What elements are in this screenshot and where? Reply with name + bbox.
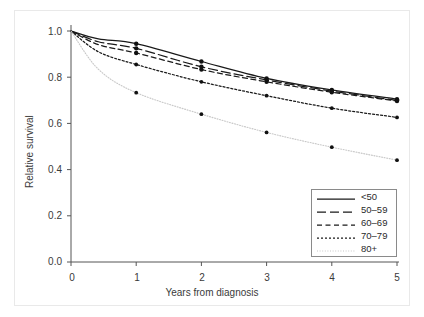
x-tick-label: 4 (322, 272, 342, 283)
legend-item: <50 (312, 190, 396, 203)
plot-area (0, 0, 424, 317)
curve-<50 (71, 31, 397, 99)
data-point (200, 80, 204, 84)
data-point (134, 51, 138, 55)
data-point (330, 106, 334, 110)
legend-key-line-dotted (316, 230, 356, 242)
y-tick-label: 1.0 (32, 26, 62, 37)
legend-key-line-long-dash (316, 204, 356, 216)
x-tick-label: 2 (192, 272, 212, 283)
legend-item: 50–59 (312, 203, 396, 216)
data-point (265, 131, 269, 135)
data-point (134, 63, 138, 67)
data-point (265, 94, 269, 98)
data-point (330, 90, 334, 94)
legend-item: 80+ (312, 242, 396, 255)
y-tick-label: 0.0 (32, 256, 62, 267)
legend-key-line-solid (316, 191, 356, 203)
legend-label: <50 (361, 191, 377, 202)
data-point (199, 59, 203, 63)
series-curves (71, 31, 397, 160)
data-point (134, 46, 138, 50)
legend-label: 50–59 (361, 204, 387, 215)
y-tick-label: 0.2 (32, 210, 62, 221)
x-tick-label: 1 (127, 272, 147, 283)
relative-survival-figure: 1.0 0.8 0.6 0.4 0.2 0.0 0 1 2 3 4 5 Rela… (0, 0, 424, 317)
y-axis-label: Relative survival (24, 115, 35, 188)
legend-box: <50 50–59 60–69 70–79 80+ (311, 189, 397, 257)
x-axis-label: Years from diagnosis (0, 287, 424, 298)
legend-label: 70–79 (361, 230, 387, 241)
y-tick-label: 0.8 (32, 72, 62, 83)
legend-item: 70–79 (312, 229, 396, 242)
data-point (330, 145, 334, 149)
x-tick-label: 3 (257, 272, 277, 283)
data-point (264, 80, 268, 84)
data-point (200, 112, 204, 116)
y-tick-label: 0.4 (32, 164, 62, 175)
data-point (199, 67, 203, 71)
y-tick-label: 0.6 (32, 118, 62, 129)
legend-key-line-dash (316, 217, 356, 229)
x-tick-label: 5 (387, 272, 407, 283)
data-point (395, 99, 399, 103)
data-point (395, 115, 399, 119)
curve-80+ (71, 31, 397, 160)
data-point (134, 42, 138, 46)
data-point (134, 91, 138, 95)
legend-key-line-fine-dotted (316, 243, 356, 255)
legend-label: 80+ (361, 243, 377, 254)
data-point (395, 158, 399, 162)
legend-item: 60–69 (312, 216, 396, 229)
x-tick-label: 0 (62, 272, 82, 283)
legend-label: 60–69 (361, 217, 387, 228)
survival-curves-svg (0, 0, 424, 317)
